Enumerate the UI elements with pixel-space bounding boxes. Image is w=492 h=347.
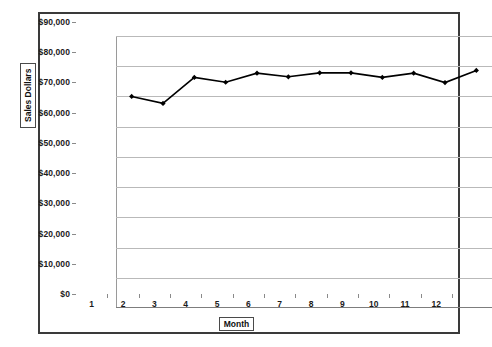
x-tick-mark: [107, 294, 108, 298]
x-tick-mark: [327, 294, 328, 298]
y-tick-mark: [72, 22, 76, 23]
chart-frame: [38, 12, 460, 334]
x-tick-mark: [295, 294, 296, 298]
data-point-marker: [442, 80, 447, 85]
data-point-marker: [129, 94, 134, 99]
x-tick-mark: [358, 294, 359, 298]
y-tick-mark: [72, 82, 76, 83]
data-point-marker: [411, 71, 416, 76]
y-tick-label: $80,000: [8, 47, 70, 57]
x-tick-mark: [139, 294, 140, 298]
x-tick-label: 7: [265, 299, 295, 309]
x-tick-label: 4: [171, 299, 201, 309]
y-tick-label: $50,000: [8, 138, 70, 148]
x-tick-mark: [389, 294, 390, 298]
y-tick-label: $10,000: [8, 259, 70, 269]
data-point-marker: [348, 70, 353, 75]
x-tick-mark: [421, 294, 422, 298]
x-tick-label: 5: [202, 299, 232, 309]
x-tick-mark: [233, 294, 234, 298]
y-tick-mark: [72, 173, 76, 174]
y-tick-label: $0: [8, 289, 70, 299]
y-tick-label: $70,000: [8, 77, 70, 87]
series-markers: [129, 68, 479, 106]
y-tick-mark: [72, 234, 76, 235]
data-point-marker: [380, 75, 385, 80]
plot-area: [116, 36, 492, 308]
y-tick-mark: [72, 113, 76, 114]
data-point-marker: [254, 71, 259, 76]
x-tick-label: 2: [108, 299, 138, 309]
x-tick-label: 10: [359, 299, 389, 309]
x-tick-label: 9: [327, 299, 357, 309]
x-tick-mark: [201, 294, 202, 298]
y-tick-mark: [72, 203, 76, 204]
x-tick-label: 1: [77, 299, 107, 309]
x-tick-label: 8: [296, 299, 326, 309]
y-tick-label: $40,000: [8, 168, 70, 178]
data-point-marker: [317, 70, 322, 75]
x-tick-label: 12: [421, 299, 451, 309]
y-tick-label: $30,000: [8, 198, 70, 208]
x-axis-title: Month: [219, 317, 255, 331]
data-point-marker: [223, 80, 228, 85]
x-tick-label: 11: [390, 299, 420, 309]
y-tick-label: $20,000: [8, 229, 70, 239]
y-tick-label: $90,000: [8, 17, 70, 27]
y-tick-mark: [72, 143, 76, 144]
y-tick-label: $60,000: [8, 108, 70, 118]
y-tick-mark: [72, 294, 76, 295]
y-tick-mark: [72, 264, 76, 265]
y-tick-mark: [72, 52, 76, 53]
data-point-marker: [286, 74, 291, 79]
x-tick-label: 6: [233, 299, 263, 309]
x-axis-title-wrap: Month: [0, 313, 473, 331]
x-tick-mark: [452, 294, 453, 298]
x-tick-mark: [170, 294, 171, 298]
x-tick-mark: [264, 294, 265, 298]
x-tick-label: 3: [139, 299, 169, 309]
data-point-marker: [474, 68, 479, 73]
series-line: [116, 36, 492, 308]
series-polyline: [132, 70, 477, 103]
y-axis-title: Sales Dollars: [20, 63, 36, 128]
